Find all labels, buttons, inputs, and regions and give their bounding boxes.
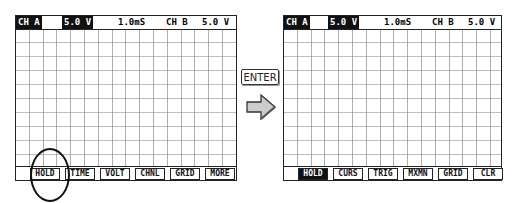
softkey-grid[interactable]: GRID (170, 168, 200, 180)
ch-b-label: CH B (166, 16, 188, 29)
softkey-volt[interactable]: VOLT (100, 168, 130, 180)
softkey-curs[interactable]: CURS (333, 168, 363, 180)
highlight-circle (30, 148, 70, 202)
softkey-clr[interactable]: CLR (473, 168, 503, 180)
status-header: CH A 5.0 V 1.0mS CH B 5.0 V (284, 16, 501, 30)
graticule-grid (16, 29, 236, 166)
softkey-mxmn[interactable]: MXMN (403, 168, 433, 180)
ch-a-label: CH A (16, 16, 42, 29)
timebase: 1.0mS (118, 16, 145, 29)
ch-a-label: CH A (284, 16, 310, 29)
timebase: 1.0mS (384, 16, 411, 29)
softkey-grid[interactable]: GRID (438, 168, 468, 180)
softkey-chnl[interactable]: CHNL (135, 168, 165, 180)
ch-a-volts: 5.0 V (62, 16, 93, 29)
enter-key[interactable]: ENTER (241, 69, 279, 85)
softkey-more[interactable]: MORE (205, 168, 235, 180)
right-arrow-icon (246, 94, 276, 120)
scope-screen-after: CH A 5.0 V 1.0mS CH B 5.0 V HOLD CURS TR… (283, 15, 502, 181)
ch-b-label: CH B (432, 16, 454, 29)
softkey-bar: HOLD CURS TRIG MXMN GRID CLR (284, 166, 501, 180)
softkey-hold[interactable]: HOLD (298, 168, 328, 180)
ch-b-volts: 5.0 V (202, 16, 229, 29)
softkey-trig[interactable]: TRIG (368, 168, 398, 180)
ch-a-volts: 5.0 V (328, 16, 359, 29)
graticule-grid (284, 29, 501, 166)
ch-b-volts: 5.0 V (468, 16, 495, 29)
status-header: CH A 5.0 V 1.0mS CH B 5.0 V (16, 16, 236, 30)
